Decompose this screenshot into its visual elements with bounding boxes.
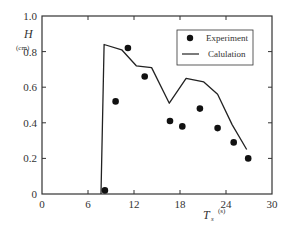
y-tick-label: 0.6 (23, 81, 37, 93)
y-tick-label: 1.0 (23, 10, 37, 22)
experiment-marker-icon (187, 35, 193, 41)
experiment-point (112, 98, 119, 105)
calculation-series-line (101, 45, 247, 195)
experiment-point (141, 73, 148, 80)
y-axis-unit: (cm) (16, 44, 30, 52)
x-axis-subscript: s (211, 215, 214, 223)
experiment-point (197, 105, 204, 112)
legend-experiment-label: Experiment (206, 33, 248, 43)
experiment-point (179, 123, 186, 130)
legend: Experiment Calulation (177, 30, 253, 65)
x-axis-title: T (203, 208, 211, 222)
x-axis-unit: (s) (218, 207, 226, 215)
y-tick-label: 0 (32, 188, 38, 200)
legend-calculation-label: Calulation (208, 49, 246, 59)
experiment-point (125, 45, 132, 52)
y-tick-label: 0.4 (23, 117, 37, 129)
x-tick-label: 12 (129, 198, 140, 210)
y-axis-title: H (23, 27, 34, 41)
experiment-point (167, 118, 174, 125)
calculation-line (101, 45, 247, 195)
experiment-point (245, 155, 252, 162)
experiment-point (230, 139, 237, 146)
x-tick-label: 0 (39, 198, 45, 210)
x-tick-label: 30 (267, 198, 279, 210)
experiment-point (214, 125, 221, 132)
x-tick-label: 6 (85, 198, 91, 210)
chart: 061218243000.20.40.60.81.0 H (cm) T s (s… (0, 0, 292, 231)
x-tick-label: 18 (175, 198, 187, 210)
y-tick-label: 0.2 (23, 152, 37, 164)
experiment-point (102, 187, 109, 194)
